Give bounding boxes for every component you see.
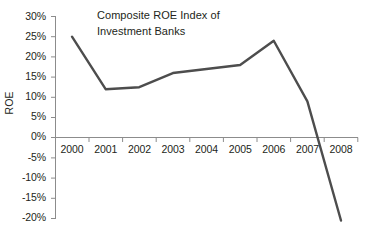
y-tick-label-neg5: -5% bbox=[8, 151, 46, 163]
y-tick-label-15: 15% bbox=[8, 70, 46, 82]
y-tick-label-10: 10% bbox=[8, 90, 46, 102]
y-tick-label-25: 25% bbox=[8, 30, 46, 42]
x-tick-label-2002: 2002 bbox=[122, 143, 156, 155]
y-tick-label-neg20: -20% bbox=[8, 211, 46, 223]
y-tick-label-30: 30% bbox=[8, 10, 46, 22]
y-tick-label-20: 20% bbox=[8, 50, 46, 62]
roe-series-line bbox=[72, 37, 341, 221]
y-tick-label-5: 5% bbox=[8, 110, 46, 122]
x-tick-label-2006: 2006 bbox=[257, 143, 291, 155]
x-tick-label-2004: 2004 bbox=[190, 143, 224, 155]
y-tick-label-neg10: -10% bbox=[8, 171, 46, 183]
y-tick-label-0: 0% bbox=[8, 130, 46, 142]
x-tick-label-2000: 2000 bbox=[55, 143, 89, 155]
roe-line-chart: Composite ROE Index of Investment Banks … bbox=[0, 0, 370, 233]
x-tick-label-2007: 2007 bbox=[290, 143, 324, 155]
chart-title: Composite ROE Index of Investment Banks bbox=[97, 8, 220, 39]
y-axis-ticks bbox=[51, 17, 56, 219]
x-axis-ticks bbox=[56, 138, 358, 143]
x-tick-label-2003: 2003 bbox=[156, 143, 190, 155]
x-tick-label-2005: 2005 bbox=[223, 143, 257, 155]
x-tick-label-2008: 2008 bbox=[324, 143, 358, 155]
x-tick-label-2001: 2001 bbox=[89, 143, 123, 155]
y-tick-label-neg15: -15% bbox=[8, 191, 46, 203]
